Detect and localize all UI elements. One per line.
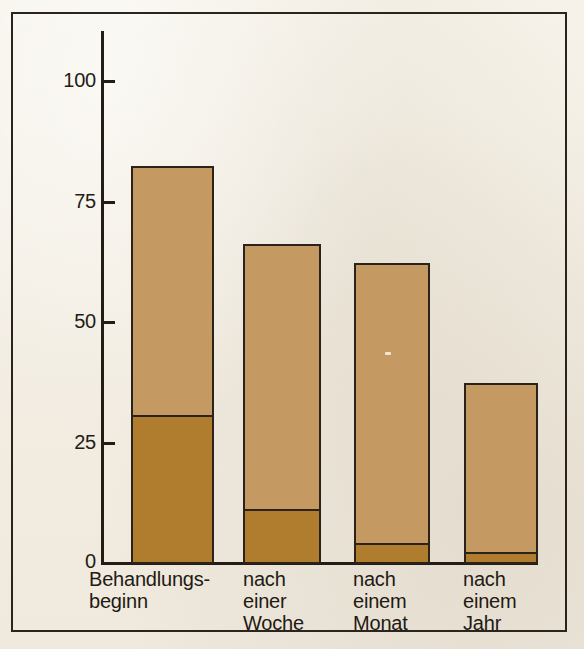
plot-area: 100 75 50 25 0 Behandlungs- beginn nach … (0, 0, 584, 649)
y-tick-mark-100 (104, 80, 115, 83)
bar-nach-einem-monat[interactable] (354, 263, 430, 564)
y-tick-label-25: 25 (38, 432, 96, 452)
bar-segment-upper (356, 265, 428, 547)
y-tick-label-50: 50 (38, 311, 96, 331)
bar-nach-einer-woche[interactable] (243, 244, 321, 564)
category-label-behandlungsbeginn: Behandlungs- beginn (89, 568, 249, 612)
bar-segment-lower (466, 552, 536, 562)
bar-segment-lower (356, 543, 428, 562)
bar-behandlungsbeginn[interactable] (131, 166, 214, 564)
y-tick-mark-50 (104, 321, 115, 324)
y-tick-label-0: 0 (38, 551, 96, 571)
category-label-nach-einem-monat: nach einem Monat (353, 568, 453, 634)
scan-artifact-speck (385, 352, 391, 355)
y-tick-label-100: 100 (38, 70, 96, 90)
bar-segment-upper (466, 385, 536, 556)
bar-segment-upper (245, 246, 319, 513)
bar-segment-lower (133, 415, 212, 562)
y-tick-mark-25 (104, 442, 115, 445)
y-tick-mark-75 (104, 201, 115, 204)
bar-segment-lower (245, 509, 319, 562)
category-label-nach-einem-jahr: nach einem Jahr (463, 568, 563, 634)
bar-segment-upper (133, 168, 212, 419)
y-axis-line (101, 31, 104, 565)
category-label-nach-einer-woche: nach einer Woche (243, 568, 343, 634)
chart-page: 100 75 50 25 0 Behandlungs- beginn nach … (0, 0, 584, 649)
bar-nach-einem-jahr[interactable] (464, 383, 538, 564)
y-tick-label-75: 75 (38, 191, 96, 211)
